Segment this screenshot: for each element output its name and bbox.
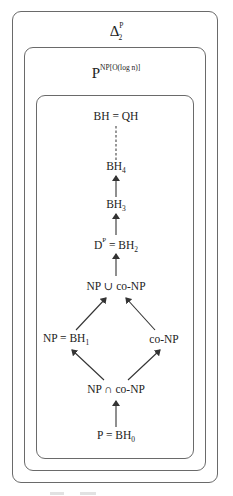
node-base: BH [106, 160, 122, 172]
node-sub: 1 [85, 338, 89, 347]
node-sub: 4 [122, 166, 126, 175]
node-text: co-NP [149, 333, 178, 345]
node-conp: co-NP [149, 334, 178, 346]
node-base: BH [106, 198, 122, 210]
node-np-equals-bh1: NP = BH1 [43, 333, 89, 347]
node-np-union-conp: NP ∪ co-NP [86, 281, 145, 293]
node-np-intersect-conp: NP ∩ co-NP [87, 384, 145, 396]
node-sub: 2 [134, 245, 138, 254]
node-bh4: BH4 [106, 161, 126, 175]
node-sub: 0 [131, 435, 135, 444]
node-dp-equals-bh2: DP = BH2 [94, 237, 138, 254]
node-base: P = BH [97, 429, 131, 441]
node-text: NP ∪ co-NP [86, 280, 145, 292]
node-text: BH = QH [94, 110, 139, 122]
caption-fragment [80, 492, 96, 495]
node-text: NP ∩ co-NP [87, 383, 145, 395]
edge-conp-to-union [126, 298, 155, 330]
node-mid: = BH [106, 239, 134, 251]
node-p-equals-bh0: P = BH0 [97, 430, 135, 444]
caption-fragment [50, 492, 64, 495]
node-bh-equals-qh: BH = QH [94, 111, 139, 123]
edge-intersect-to-conp [128, 350, 160, 380]
node-base: NP = BH [43, 332, 86, 344]
node-bh3: BH3 [106, 199, 126, 213]
edge-bh1-to-union [76, 298, 106, 330]
edge-intersect-to-bh1 [72, 350, 104, 380]
node-sub: 3 [122, 204, 126, 213]
